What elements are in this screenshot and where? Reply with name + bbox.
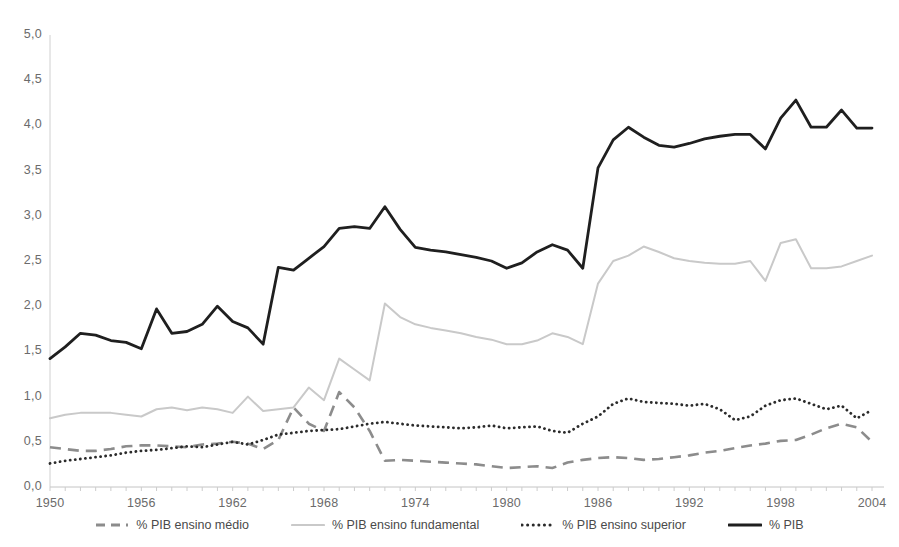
legend-swatch-icon <box>95 520 129 530</box>
series-line-1 <box>50 239 872 418</box>
plot-area <box>0 0 899 547</box>
legend-item-label: % PIB ensino médio <box>136 518 249 532</box>
legend-item-label: % PIB ensino superior <box>562 518 686 532</box>
legend-swatch-icon <box>728 520 762 530</box>
legend-swatch-icon <box>291 520 325 530</box>
chart-legend: % PIB ensino médio% PIB ensino fundament… <box>0 518 899 532</box>
legend-item[interactable]: % PIB <box>728 518 804 532</box>
legend-item-label: % PIB <box>769 518 804 532</box>
legend-swatch-icon <box>521 520 555 530</box>
legend-item[interactable]: % PIB ensino médio <box>95 518 249 532</box>
series-line-3 <box>50 100 872 359</box>
series-line-0 <box>50 392 872 468</box>
legend-item[interactable]: % PIB ensino fundamental <box>291 518 479 532</box>
chart-root: 0,00,51,01,52,02,53,03,54,04,55,0 195019… <box>0 0 899 547</box>
legend-item-label: % PIB ensino fundamental <box>332 518 479 532</box>
legend-item[interactable]: % PIB ensino superior <box>521 518 686 532</box>
